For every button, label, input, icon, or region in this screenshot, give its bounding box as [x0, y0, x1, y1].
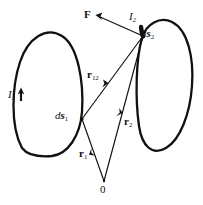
- current-arrow-1-icon: [18, 88, 25, 102]
- element-ds2-label: ds2: [141, 28, 154, 41]
- diagram-canvas: [0, 0, 203, 205]
- physics-diagram-two-current-loops: F I2 ds2 I1 ds1 r12 r2 r1 0: [0, 0, 203, 205]
- position-vector-1-label: r1: [79, 148, 87, 161]
- current-2-label: I2: [129, 11, 136, 24]
- element-ds1-label: ds1: [55, 110, 68, 123]
- left-current-loop: [14, 32, 83, 156]
- force-label: F: [84, 9, 91, 20]
- separation-vector-label: r12: [87, 69, 99, 82]
- position-vector-2-label: r2: [124, 116, 132, 129]
- current-1-label: I1: [8, 89, 15, 102]
- origin-label: 0: [100, 184, 106, 195]
